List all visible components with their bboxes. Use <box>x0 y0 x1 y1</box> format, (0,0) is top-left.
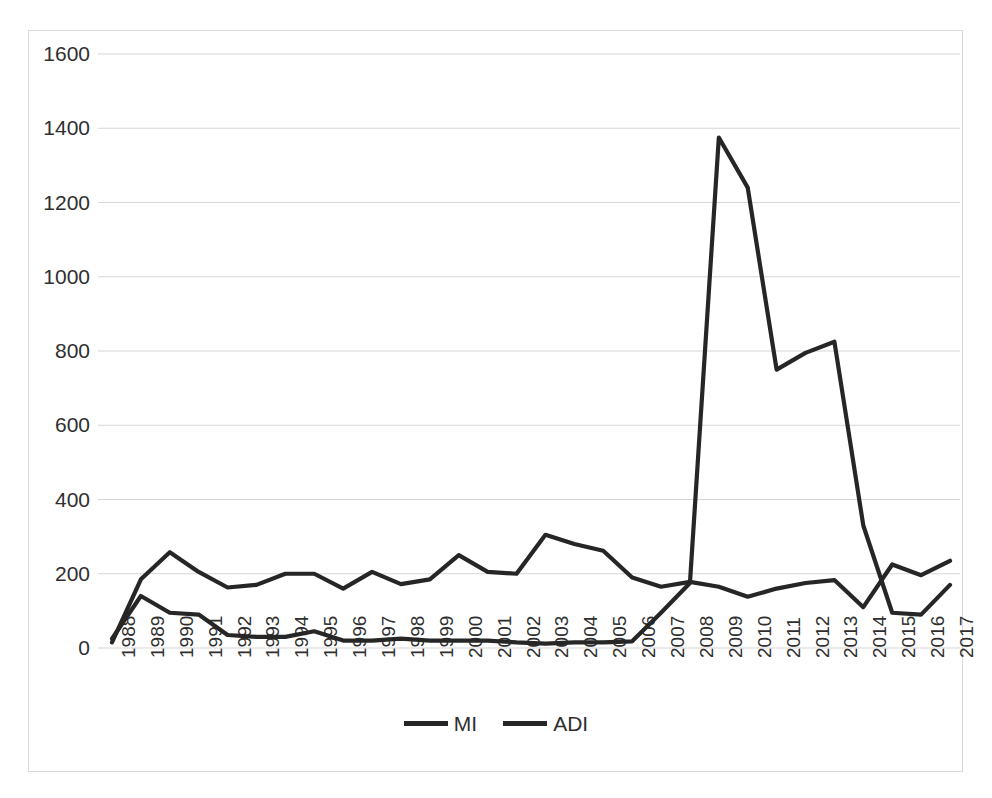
y-axis-tick-label: 600 <box>20 414 90 435</box>
y-axis-tick-label: 1400 <box>20 117 90 138</box>
chart-legend: MI ADI <box>0 713 992 734</box>
x-axis-tick-label: 2005 <box>610 616 629 658</box>
legend-label-adi: ADI <box>553 713 588 734</box>
x-axis-tick-label: 2011 <box>784 617 803 658</box>
y-axis-tick-label: 0 <box>20 637 90 658</box>
x-axis-tick-label: 2010 <box>755 616 774 658</box>
y-axis-tick-label: 1000 <box>20 266 90 287</box>
x-axis-tick-label: 2006 <box>639 616 658 658</box>
x-axis-tick-label: 2014 <box>870 616 889 658</box>
x-axis-tick-label: 1991 <box>206 616 225 658</box>
x-axis-tick-label: 1997 <box>379 616 398 658</box>
x-axis-tick-label: 1988 <box>119 616 138 658</box>
x-axis-tick-label: 1990 <box>177 616 196 658</box>
x-axis-tick-label: 2016 <box>928 616 947 658</box>
chart-container: 16001400120010008006004002000 1988198919… <box>0 0 992 798</box>
x-axis-tick-label: 2015 <box>899 616 918 658</box>
x-axis-tick-label: 1998 <box>408 616 427 658</box>
x-axis-tick-label: 1995 <box>321 616 340 658</box>
y-axis-tick-label: 1200 <box>20 192 90 213</box>
x-axis-tick-label: 1999 <box>437 616 456 658</box>
x-axis-tick-label: 1989 <box>148 616 167 658</box>
y-axis-tick-label: 1600 <box>20 43 90 64</box>
x-axis-tick-label: 2012 <box>813 616 832 658</box>
x-axis-tick-label: 1994 <box>292 616 311 658</box>
y-axis-tick-label: 400 <box>20 489 90 510</box>
legend-swatch-mi <box>404 721 448 726</box>
legend-item-mi[interactable]: MI <box>404 713 477 734</box>
y-axis-tick-label: 800 <box>20 340 90 361</box>
x-axis-tick-label: 2001 <box>495 616 514 658</box>
x-axis-tick-label: 1992 <box>235 616 254 658</box>
x-axis-tick-label: 2007 <box>668 616 687 658</box>
x-axis-tick-label: 2002 <box>524 616 543 658</box>
legend-label-mi: MI <box>454 713 477 734</box>
x-axis-tick-label: 2000 <box>466 616 485 658</box>
x-axis-tick-label: 1996 <box>350 616 369 658</box>
chart-frame <box>28 30 963 772</box>
x-axis-tick-label: 2003 <box>552 616 571 658</box>
x-axis-tick-label: 2017 <box>957 616 976 658</box>
legend-swatch-adi <box>503 721 547 726</box>
x-axis-tick-label: 2004 <box>581 616 600 658</box>
x-axis-tick-label: 2013 <box>841 616 860 658</box>
x-axis-tick-label: 2009 <box>726 616 745 658</box>
legend-item-adi[interactable]: ADI <box>503 713 588 734</box>
y-axis-tick-label: 200 <box>20 563 90 584</box>
x-axis-tick-label: 1993 <box>263 616 282 658</box>
x-axis-tick-label: 2008 <box>697 616 716 658</box>
